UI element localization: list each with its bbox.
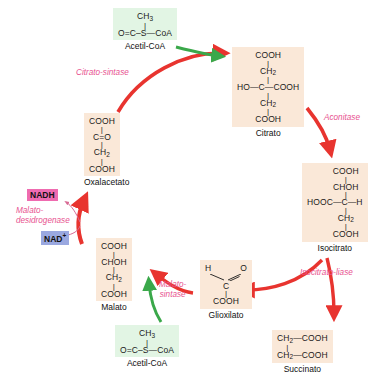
glioxilato-structure: H O C | COOH	[200, 260, 252, 309]
malato-sintase-line1: Malato-	[159, 280, 186, 290]
isocitrato-structure: COOH | CHOH | HOOC—C—H | CH2 | COOH	[302, 163, 368, 242]
acetyl-top-line2: O=C–S—CoA	[118, 28, 172, 39]
glioxilato-label: Glioxilato	[200, 310, 252, 320]
isocitrato-label: Isocitrato	[302, 243, 368, 253]
acetyl-bottom-line2: O=C–S—CoA	[120, 345, 174, 356]
node-oxalacetato: COOH | C=O | CH2 | COOH Oxalacetato	[84, 113, 129, 187]
nad-text: NAD	[44, 234, 62, 244]
acetyl-coa-top-structure: CH3 | O=C–S—CoA	[113, 8, 177, 40]
node-glioxilato: H O C | COOH Glioxilato	[200, 260, 252, 320]
oxalacetato-l4: COOH	[89, 164, 115, 175]
citrato-label: Citrato	[232, 128, 304, 138]
cofactor-badge-nadh: NADH	[27, 189, 58, 201]
malato-l4: COOH	[101, 289, 127, 300]
oxalacetato-label: Oxalacetato	[84, 177, 129, 187]
node-acetyl-coa-bottom: CH3 | O=C–S—CoA Acetil-CoA	[115, 325, 179, 368]
acetyl-coa-bottom-structure: CH3 | O=C–S—CoA	[115, 325, 179, 357]
succinato-l1: CH2—COOH	[277, 333, 328, 345]
succinato-structure: CH2—COOH | CH2—COOH	[272, 330, 333, 363]
acetyl-coa-top-label: Acetil-CoA	[113, 41, 177, 51]
isocitrato-l5: COOH	[307, 229, 363, 240]
cofactor-badge-nad: NAD+	[41, 231, 69, 245]
arrow-isocitrato-to-succinato	[327, 258, 334, 314]
enzyme-label-citrato-sintase: Citrato-sintase	[76, 68, 129, 78]
isocitrato-l1: COOH	[307, 166, 363, 177]
citrato-structure: COOH | CH2 | HO—C—COOH | CH2 | COOH	[232, 47, 304, 127]
succinato-l2: CH2—COOH	[277, 350, 328, 362]
node-citrato: COOH | CH2 | HO—C—COOH | CH2 | COOH Citr…	[232, 47, 304, 138]
nad-superscript: +	[62, 232, 66, 239]
citrato-l5: COOH	[237, 114, 299, 125]
glioxilato-l3: COOH	[205, 296, 247, 307]
glyoxylate-cycle-diagram: CH3 | O=C–S—CoA Acetil-CoA COOH | CH2 | …	[0, 0, 391, 379]
enzyme-label-aconitase: Aconitase	[324, 113, 360, 123]
succinato-label: Succinato	[272, 364, 333, 374]
malato-desidrogenase-line2: desidrogenase	[16, 216, 70, 226]
node-isocitrato: COOH | CHOH | HOOC—C—H | CH2 | COOH Isoc…	[302, 163, 368, 253]
acetyl-coa-bottom-label: Acetil-CoA	[115, 358, 179, 368]
oxalacetato-structure: COOH | C=O | CH2 | COOH	[84, 113, 120, 176]
malato-structure: COOH | CHOH | CH2 | COOH	[96, 238, 132, 301]
glioxilato-h: H	[205, 263, 211, 274]
glioxilato-o: O	[240, 263, 247, 274]
node-acetyl-coa-top: CH3 | O=C–S—CoA Acetil-CoA	[113, 8, 177, 51]
glioxilato-bond-svg	[205, 274, 247, 281]
malato-sintase-line2: sintase	[159, 290, 186, 300]
arrow-malato-to-oxalacetato	[78, 200, 84, 244]
glioxilato-bonds	[205, 274, 247, 281]
glioxilato-l1: H O	[205, 263, 247, 274]
enzyme-label-isocitrato-liase: Isocitrato-liase	[300, 268, 353, 278]
node-malato: COOH | CHOH | CH2 | COOH Malato	[96, 238, 132, 312]
node-succinato: CH2—COOH | CH2—COOH Succinato	[272, 330, 333, 374]
isocitrato-l3: HOOC—C—H	[307, 197, 363, 208]
arrow-oxalacetato-to-citrato	[118, 53, 222, 112]
malato-label: Malato	[96, 302, 132, 312]
enzyme-label-malato-desidrogenase: Malato- desidrogenase	[16, 206, 70, 225]
malato-desidrogenase-line1: Malato-	[16, 206, 70, 216]
isocitrato-l2: CHOH	[307, 182, 363, 193]
enzyme-label-malato-sintase: Malato- sintase	[159, 280, 186, 299]
isocitrato-l4: CH2	[307, 213, 363, 225]
